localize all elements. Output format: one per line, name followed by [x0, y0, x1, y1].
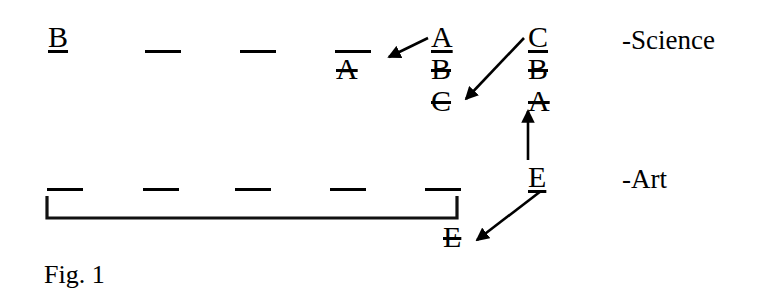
token-A-crossed[interactable]: A: [336, 54, 358, 84]
token-A-crossed-2[interactable]: A: [528, 86, 550, 116]
token-B-crossed-2[interactable]: B: [528, 54, 548, 84]
token-E-crossed[interactable]: E: [443, 222, 461, 252]
arrow-C-to-C: [466, 38, 524, 99]
row-label-art-row: -Art: [622, 166, 667, 193]
token-B-filled[interactable]: B: [48, 22, 68, 52]
token-A-selected[interactable]: A: [431, 22, 453, 52]
arrow-A-to-blank: [389, 38, 428, 57]
token-C-selected[interactable]: C: [528, 22, 548, 52]
row-label-science-row: -Science: [622, 27, 715, 54]
token-E-selected[interactable]: E: [528, 162, 546, 192]
token-C-crossed[interactable]: C: [431, 86, 451, 116]
figure-canvas: BAABCCBAEE -Science-Art Fig. 1: [0, 0, 771, 305]
token-B-crossed[interactable]: B: [431, 54, 451, 84]
figure-caption: Fig. 1: [44, 262, 105, 288]
arrow-E-to-E: [477, 191, 541, 240]
